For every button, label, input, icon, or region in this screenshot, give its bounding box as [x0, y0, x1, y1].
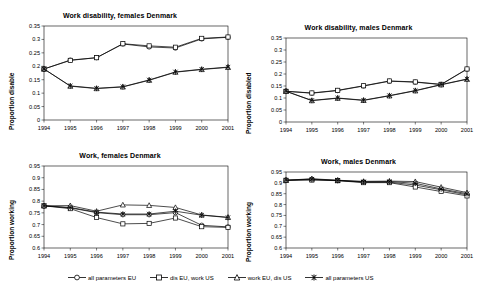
data-point-square [200, 36, 204, 40]
chart-plot-area: 00.050.10.150.20.250.30.3519941995199619… [0, 20, 240, 142]
plot-frame [286, 172, 467, 248]
series-triangle [284, 77, 470, 103]
legend-label: all parameters EU [88, 275, 136, 281]
data-point-square [200, 225, 204, 229]
y-tick-label: 0.1 [274, 95, 282, 101]
x-tick-label: 1998 [383, 127, 395, 133]
y-tick-label: 0.05 [271, 107, 282, 113]
y-tick-label: 0.35 [29, 23, 40, 29]
chart-legend: all parameters EU dis EU, work US work E… [68, 273, 373, 282]
y-tick-label: 0.85 [271, 191, 282, 197]
legend-item[interactable]: all parameters EU [68, 273, 136, 282]
legend-item[interactable]: dis EU, work US [150, 273, 214, 282]
y-tick-label: 0 [279, 119, 282, 125]
legend-marker-triangle-icon [228, 273, 246, 282]
x-tick-label: 2001 [222, 253, 234, 259]
y-tick-label: 0.8 [274, 202, 282, 208]
data-point-square [121, 222, 125, 226]
x-tick-label: 1999 [169, 253, 181, 259]
data-point-square [94, 215, 98, 219]
x-tick-label: 1995 [306, 127, 318, 133]
y-tick-label: 0.1 [32, 90, 40, 96]
x-tick-label: 1997 [117, 125, 129, 131]
x-tick-label: 2000 [435, 127, 447, 133]
x-tick-label: 1994 [38, 125, 50, 131]
x-tick-label: 1995 [64, 125, 76, 131]
data-point-square [336, 88, 340, 92]
series-cross [42, 64, 230, 91]
chart-title: Work disability, females Denmark [0, 12, 240, 19]
y-tick-label: 0.95 [271, 169, 282, 175]
data-point-square [413, 80, 417, 84]
y-tick-label: 0.2 [32, 63, 40, 69]
x-tick-label: 1998 [143, 253, 155, 259]
figure-root: Work disability, females Denmark Proport… [0, 0, 477, 297]
y-tick-label: 0.9 [274, 180, 282, 186]
legend-label: work EU, dis US [248, 275, 292, 281]
data-point-square [68, 58, 72, 62]
y-tick-label: 0.9 [32, 175, 40, 181]
x-tick-label: 2001 [461, 127, 473, 133]
x-tick-label: 1999 [409, 253, 421, 259]
x-tick-label: 1997 [357, 127, 369, 133]
y-tick-label: 0.15 [271, 83, 282, 89]
x-tick-label: 1995 [306, 253, 318, 259]
y-tick-label: 0.2 [274, 71, 282, 77]
x-tick-label: 1997 [357, 253, 369, 259]
data-point-square [226, 35, 230, 39]
x-tick-label: 1994 [280, 127, 292, 133]
chart-panel-work-disability-females: Work disability, females Denmark Proport… [0, 12, 240, 144]
chart-title: Work, males Denmark [240, 158, 477, 165]
y-tick-label: 0.65 [29, 233, 40, 239]
x-tick-label: 2000 [195, 125, 207, 131]
x-tick-label: 1998 [383, 253, 395, 259]
data-point-square [173, 216, 177, 220]
series-square [284, 67, 469, 95]
chart-panel-work-males: Work, males Denmark Proportion working 0… [240, 158, 477, 270]
data-point-square [465, 67, 469, 71]
x-tick-label: 1994 [280, 253, 292, 259]
y-tick-label: 0.6 [274, 245, 282, 251]
x-tick-label: 1995 [64, 253, 76, 259]
y-tick-label: 0.75 [29, 210, 40, 216]
data-point-square [226, 225, 230, 229]
chart-plot-area: 00.050.10.150.20.250.30.3519941995199619… [240, 32, 477, 144]
y-tick-label: 0.3 [274, 47, 282, 53]
y-tick-label: 0.75 [271, 212, 282, 218]
legend-item[interactable]: work EU, dis US [228, 273, 292, 282]
legend-item[interactable]: all parameters US [305, 273, 373, 282]
y-tick-label: 0.35 [271, 35, 282, 41]
series-square [42, 35, 230, 71]
chart-title: Work disability, males Denmark [240, 24, 477, 31]
x-tick-label: 1999 [169, 125, 181, 131]
data-point-square [121, 42, 125, 46]
series-cross [284, 76, 469, 103]
data-point-square [310, 91, 314, 95]
data-point-square [173, 45, 177, 49]
legend-marker-circle-icon [68, 273, 86, 282]
y-tick-label: 0.7 [32, 222, 40, 228]
legend-label: all parameters US [325, 275, 373, 281]
y-tick-label: 0.25 [29, 50, 40, 56]
y-tick-label: 0.8 [32, 198, 40, 204]
y-tick-label: 0.25 [271, 59, 282, 65]
x-tick-label: 1994 [38, 253, 50, 259]
chart-plot-area: 0.60.650.70.750.80.850.90.95199419951996… [0, 160, 240, 270]
y-tick-label: 0.3 [32, 36, 40, 42]
x-tick-label: 1996 [331, 253, 343, 259]
y-tick-label: 0.85 [29, 186, 40, 192]
y-tick-label: 0.95 [29, 163, 40, 169]
x-tick-label: 2001 [222, 125, 234, 131]
data-point-square [147, 221, 151, 225]
data-point-square [387, 79, 391, 83]
y-tick-label: 0.7 [274, 223, 282, 229]
chart-title: Work, females Denmark [0, 152, 240, 159]
y-tick-label: 0.6 [32, 245, 40, 251]
x-tick-label: 2000 [195, 253, 207, 259]
series-cross [42, 203, 230, 220]
x-tick-label: 1996 [90, 253, 102, 259]
y-tick-label: 0.65 [271, 234, 282, 240]
x-tick-label: 1998 [143, 125, 155, 131]
data-point-square [94, 56, 98, 60]
x-tick-label: 2001 [461, 253, 473, 259]
